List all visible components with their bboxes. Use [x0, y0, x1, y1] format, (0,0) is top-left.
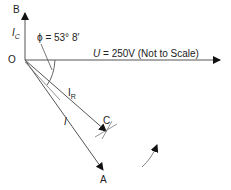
- label-i: I: [64, 117, 67, 127]
- label-phi: ϕ = 53° 8′: [37, 33, 79, 43]
- label-u: U = 250V (Not to Scale): [93, 49, 199, 59]
- label-ir-sub: R: [71, 93, 76, 100]
- label-ic-sub: C: [15, 33, 20, 40]
- label-ir: IR: [68, 88, 76, 100]
- construction-line: [25, 62, 60, 100]
- rotation-arrow: [142, 145, 157, 167]
- phasor-diagram-canvas: [0, 0, 231, 190]
- label-c: C: [103, 116, 110, 126]
- label-ic: IC: [12, 28, 20, 40]
- label-b: B: [13, 5, 20, 15]
- i-phasor-line: [25, 60, 103, 170]
- phi-leader-line: [41, 44, 52, 70]
- phi-angle-arc: [47, 60, 55, 85]
- label-origin: O: [8, 55, 16, 65]
- label-u-value: = 250V (Not to Scale): [100, 48, 199, 59]
- label-a: A: [100, 175, 107, 185]
